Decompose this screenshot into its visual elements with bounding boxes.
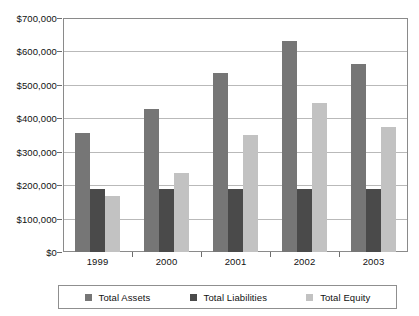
y-tick-label: $400,000 xyxy=(17,113,57,124)
y-tick-mark xyxy=(57,118,62,119)
y-tick-mark xyxy=(57,252,62,253)
bar-chart-figure: $0$100,000$200,000$300,000$400,000$500,0… xyxy=(0,0,419,316)
chart-legend: Total AssetsTotal LiabilitiesTotal Equit… xyxy=(58,285,397,309)
legend-label: Total Assets xyxy=(99,292,151,303)
legend-label: Total Equity xyxy=(320,292,370,303)
y-tick-label: $700,000 xyxy=(17,13,57,24)
x-tick-mark xyxy=(132,252,133,257)
y-tick-mark xyxy=(57,18,62,19)
gridline xyxy=(64,51,407,52)
legend-item-total-assets[interactable]: Total Assets xyxy=(85,292,151,303)
x-tick-mark xyxy=(339,252,340,257)
legend-swatch-icon xyxy=(85,294,92,301)
x-tick-label-2003: 2003 xyxy=(363,256,385,267)
gridline xyxy=(64,85,407,86)
legend-label: Total Liabilities xyxy=(204,292,267,303)
gridline xyxy=(64,118,407,119)
y-tick-label: $600,000 xyxy=(17,46,57,57)
x-tick-label-2002: 2002 xyxy=(294,256,316,267)
x-tick-label-1999: 1999 xyxy=(87,256,109,267)
legend-swatch-icon xyxy=(306,294,313,301)
y-tick-label: $100,000 xyxy=(17,213,57,224)
gridline xyxy=(64,185,407,186)
y-tick-label: $0 xyxy=(46,247,57,258)
y-tick-mark xyxy=(57,185,62,186)
y-axis: $0$100,000$200,000$300,000$400,000$500,0… xyxy=(0,18,57,252)
y-tick-mark xyxy=(57,219,62,220)
y-tick-label: $300,000 xyxy=(17,146,57,157)
x-tick-label-2000: 2000 xyxy=(156,256,178,267)
y-tick-label: $200,000 xyxy=(17,180,57,191)
y-tick-label: $500,000 xyxy=(17,79,57,90)
x-tick-label-2001: 2001 xyxy=(225,256,247,267)
legend-item-total-equity[interactable]: Total Equity xyxy=(306,292,370,303)
y-tick-mark xyxy=(57,51,62,52)
gridline xyxy=(64,219,407,220)
legend-swatch-icon xyxy=(190,294,197,301)
x-tick-mark xyxy=(201,252,202,257)
y-tick-mark xyxy=(57,152,62,153)
x-tick-mark xyxy=(270,252,271,257)
plot-area xyxy=(63,18,408,252)
x-axis: 19992000200120022003 xyxy=(63,256,408,272)
y-tick-mark xyxy=(57,85,62,86)
legend-item-total-liabilities[interactable]: Total Liabilities xyxy=(190,292,267,303)
gridline xyxy=(64,152,407,153)
